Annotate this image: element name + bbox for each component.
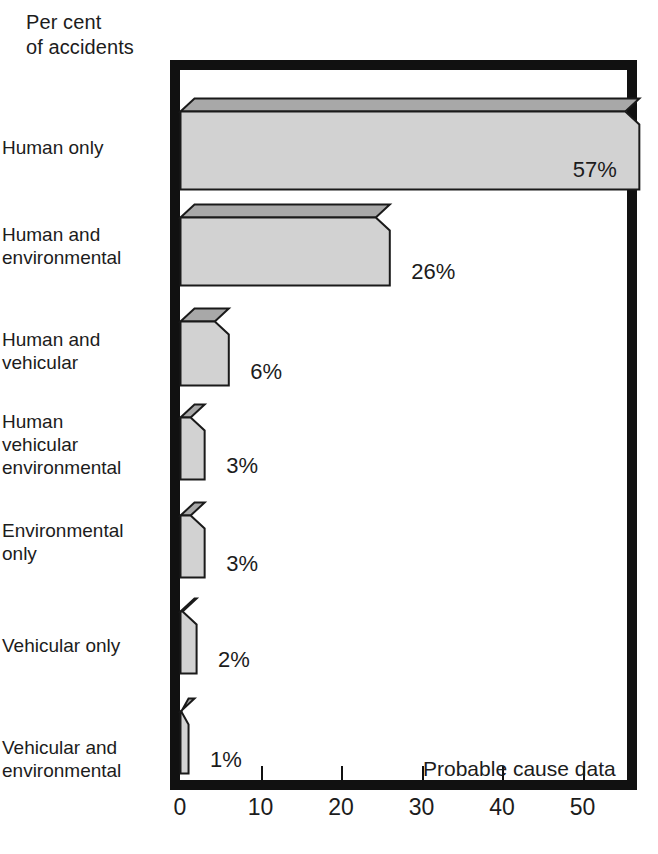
bar-top-face — [180, 405, 204, 418]
bar — [180, 502, 222, 581]
bar-value-label: 3% — [226, 553, 258, 575]
category-label: Human and environmental — [2, 223, 170, 269]
bar-value-label: 6% — [250, 361, 282, 383]
category-label: Environmental only — [2, 519, 170, 565]
category-label: Human only — [2, 136, 170, 159]
bar — [180, 698, 206, 777]
x-axis-tick-label: 0 — [174, 796, 187, 819]
x-axis-tick-label: 20 — [328, 796, 354, 819]
bar-top-face — [181, 99, 640, 112]
category-label: Human vehicular environmental — [2, 410, 170, 479]
category-label: Human and vehicular — [2, 328, 170, 374]
bar — [180, 308, 246, 389]
bar-top-face — [180, 503, 204, 516]
bar-front-face — [180, 418, 204, 480]
bar-value-label: 1% — [210, 749, 242, 771]
plot-area: 57%26%6%3%3%2%1%Probable cause data — [180, 70, 627, 780]
bar-top-face — [180, 309, 228, 322]
x-axis-tick-label: 30 — [409, 796, 435, 819]
bar-value-label: 3% — [226, 455, 258, 477]
bar-top-face — [180, 699, 194, 712]
bar-front-face — [181, 218, 390, 286]
bar-front-face — [180, 516, 204, 578]
bar-front-face — [180, 612, 196, 674]
bar-front-face — [180, 712, 188, 774]
category-label: Vehicular and environmental — [2, 736, 170, 782]
bar-value-label: 2% — [218, 649, 250, 671]
plot-annotation: Probable cause data — [423, 758, 616, 779]
bar — [180, 204, 407, 289]
x-axis-tick-label: 40 — [489, 796, 515, 819]
x-axis-tick-label: 10 — [248, 796, 274, 819]
bar-top-face — [181, 205, 390, 218]
bar-top-face — [180, 599, 196, 612]
bar-value-label: 26% — [411, 261, 455, 283]
bar-chart: Per cent of accidents Human onlyHuman an… — [0, 0, 658, 854]
bar-front-face — [181, 112, 640, 190]
category-label: Vehicular only — [2, 634, 170, 657]
x-axis-tick-label: 50 — [570, 796, 596, 819]
bar — [180, 404, 222, 483]
bar — [180, 598, 214, 677]
bar-front-face — [180, 322, 228, 386]
bar-value-label: 57% — [573, 159, 617, 181]
category-label-column: Human onlyHuman and environmentalHuman a… — [0, 0, 170, 854]
